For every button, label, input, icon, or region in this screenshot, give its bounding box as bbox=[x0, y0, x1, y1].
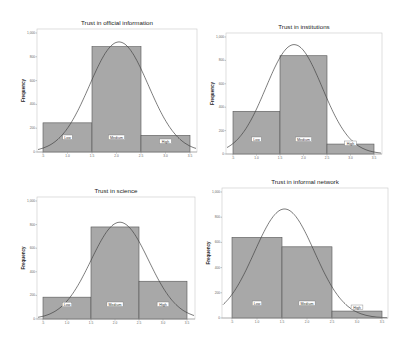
bar-high bbox=[139, 281, 187, 319]
chart-title: Trust in science bbox=[94, 187, 138, 194]
x-tick-label: 2.0 bbox=[305, 320, 310, 324]
y-tick-label: 0 bbox=[222, 152, 224, 156]
x-tick-label: .5 bbox=[42, 321, 45, 325]
y-tick-label: 1,000 bbox=[216, 35, 224, 39]
chart-official-information: Trust in official informationFrequency02… bbox=[21, 19, 197, 158]
y-tick-label: 600 bbox=[215, 240, 221, 244]
chart-title: Trust in official information bbox=[81, 19, 153, 26]
y-tick-label: 1,000 bbox=[212, 190, 220, 194]
y-tick-label: 800 bbox=[219, 58, 225, 62]
x-tick-label: 3.5 bbox=[188, 154, 193, 158]
x-tick-label: 2.5 bbox=[137, 321, 142, 325]
y-tick-label: 600 bbox=[30, 79, 36, 83]
x-tick-label: .5 bbox=[231, 320, 234, 324]
y-tick-label: 200 bbox=[215, 291, 221, 295]
y-tick-label: 400 bbox=[215, 266, 221, 270]
bar-label: High bbox=[162, 140, 169, 144]
bar-low bbox=[232, 237, 282, 318]
x-tick-label: 2.5 bbox=[325, 156, 330, 160]
x-tick-label: 2.0 bbox=[301, 156, 306, 160]
x-tick-label: 3.5 bbox=[380, 320, 385, 324]
bar-label: Medium bbox=[297, 138, 310, 142]
x-tick-label: 1.0 bbox=[65, 154, 70, 158]
x-tick-label: .5 bbox=[42, 154, 45, 158]
y-tick-label: 200 bbox=[30, 293, 36, 297]
x-tick-label: 1.0 bbox=[255, 320, 260, 324]
y-tick-label: 800 bbox=[30, 223, 36, 227]
x-tick-label: 1.5 bbox=[278, 156, 283, 160]
y-tick-label: 400 bbox=[30, 102, 36, 106]
y-tick-label: 200 bbox=[219, 129, 225, 133]
bar-label: Low bbox=[253, 138, 260, 142]
y-tick-label: 0 bbox=[218, 316, 220, 320]
x-tick-label: 3.5 bbox=[372, 156, 377, 160]
bar-low bbox=[233, 111, 280, 154]
bar-label: Low bbox=[64, 136, 71, 140]
y-tick-label: 600 bbox=[30, 246, 36, 250]
bar-label: High bbox=[353, 306, 360, 310]
chart-science: Trust in scienceFrequency02004006008001,… bbox=[21, 187, 195, 325]
x-tick-label: 3.0 bbox=[161, 321, 166, 325]
x-tick-label: 1.0 bbox=[65, 321, 70, 325]
y-tick-label: 600 bbox=[219, 82, 225, 86]
bar-label: Medium bbox=[109, 303, 122, 307]
y-axis-label: Frequency bbox=[21, 78, 26, 102]
x-tick-label: 1.0 bbox=[254, 156, 259, 160]
y-tick-label: 400 bbox=[219, 105, 225, 109]
x-tick-label: 1.5 bbox=[89, 321, 94, 325]
chart-informal-network: Trust in informal networkFrequency020040… bbox=[206, 178, 388, 324]
y-tick-label: 400 bbox=[30, 270, 36, 274]
bar-medium bbox=[282, 247, 332, 318]
x-tick-label: 2.0 bbox=[114, 154, 119, 158]
y-tick-label: 800 bbox=[215, 215, 221, 219]
x-tick-label: 2.5 bbox=[139, 154, 144, 158]
chart-title: Trust in institutions bbox=[278, 23, 329, 30]
y-tick-label: 800 bbox=[30, 55, 36, 59]
y-axis-label: Frequency bbox=[206, 241, 211, 265]
y-tick-label: 0 bbox=[33, 150, 35, 154]
x-tick-label: 1.5 bbox=[90, 154, 95, 158]
y-axis-label: Frequency bbox=[21, 246, 26, 270]
x-tick-label: 3.0 bbox=[355, 320, 360, 324]
histogram-grid: Trust in official informationFrequency02… bbox=[0, 0, 408, 344]
x-tick-label: .5 bbox=[232, 156, 235, 160]
y-tick-label: 1,000 bbox=[27, 199, 35, 203]
y-axis-label: Frequency bbox=[210, 81, 215, 105]
chart-title: Trust in informal network bbox=[271, 178, 339, 185]
y-tick-label: 200 bbox=[30, 126, 36, 130]
x-tick-label: 3.0 bbox=[348, 156, 353, 160]
chart-institutions: Trust in institutionsFrequency0200400600… bbox=[210, 23, 382, 160]
bar-label: Low bbox=[254, 302, 261, 306]
y-tick-label: 1,000 bbox=[27, 31, 35, 35]
bar-label: High bbox=[159, 303, 166, 307]
bar-label: Low bbox=[64, 303, 71, 307]
x-tick-label: 2.5 bbox=[330, 320, 335, 324]
y-tick-label: 0 bbox=[33, 317, 35, 321]
x-tick-label: 3.5 bbox=[185, 321, 190, 325]
bar-low bbox=[43, 297, 91, 319]
x-tick-label: 1.5 bbox=[280, 320, 285, 324]
bar-label: Medium bbox=[301, 302, 314, 306]
bar-label: High bbox=[347, 142, 354, 146]
bar-label: Medium bbox=[110, 136, 123, 140]
x-tick-label: 2.0 bbox=[113, 321, 118, 325]
x-tick-label: 3.0 bbox=[163, 154, 168, 158]
